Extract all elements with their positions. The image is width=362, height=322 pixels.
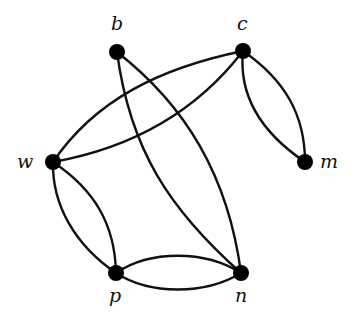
label-m: m (320, 150, 338, 172)
edge-b-n-right (117, 52, 241, 273)
label-p: p (109, 284, 121, 306)
node-b (109, 44, 125, 60)
edge-w-c-lower (53, 51, 243, 162)
edge-w-p-right (53, 162, 116, 273)
node-n (233, 265, 249, 281)
label-b: b (111, 12, 123, 34)
edge-w-p-left (53, 162, 116, 273)
edge-c-m-left (242, 51, 305, 162)
node-p (108, 265, 124, 281)
node-w (45, 154, 61, 170)
label-w: w (17, 150, 33, 172)
label-n: n (235, 284, 247, 306)
edge-p-n-lower (116, 273, 241, 290)
edge-w-c-upper (53, 51, 243, 162)
label-c: c (237, 12, 248, 34)
edges (53, 51, 305, 290)
graph-diagram: b c w m p n (0, 0, 362, 322)
edge-b-n-left (117, 52, 241, 273)
edge-p-n-upper (116, 256, 241, 273)
node-m (297, 154, 313, 170)
node-c (235, 43, 251, 59)
